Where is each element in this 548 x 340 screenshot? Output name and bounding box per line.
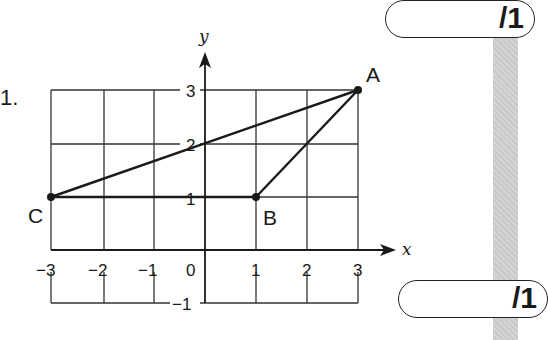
point-c-label: C xyxy=(28,204,43,227)
x-tick: −3 xyxy=(36,261,55,280)
y-tick: 3 xyxy=(186,82,195,101)
point-a-label: A xyxy=(366,63,380,86)
y-axis-label: y xyxy=(198,26,209,46)
point-a-dot xyxy=(354,86,362,94)
y-tick: −1 xyxy=(172,295,191,314)
x-axis-label: x xyxy=(402,239,412,259)
x-tick: −1 xyxy=(138,261,157,280)
point-b-label: B xyxy=(263,206,277,229)
y-tick: 1 xyxy=(186,190,195,209)
y-tick: 2 xyxy=(186,136,195,155)
point-b-dot xyxy=(252,193,260,201)
x-tick: 0 xyxy=(186,261,195,280)
x-tick: 2 xyxy=(302,261,311,280)
point-c-dot xyxy=(47,193,55,201)
x-tick: −2 xyxy=(88,261,107,280)
x-tick: 3 xyxy=(353,261,362,280)
x-tick: 1 xyxy=(251,261,260,280)
